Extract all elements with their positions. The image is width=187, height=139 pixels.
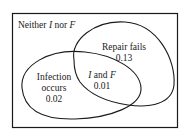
infection-occurs-label: Infection occurs 0.02 xyxy=(30,72,78,105)
repair-fails-text: Repair fails xyxy=(96,42,152,53)
infection-value: 0.02 xyxy=(30,94,78,105)
infection-text-line2: occurs xyxy=(30,83,78,94)
repair-fails-label: Repair fails 0.13 xyxy=(96,42,152,64)
infection-text-line1: Infection xyxy=(30,72,78,83)
set-f-symbol: F xyxy=(69,20,75,30)
intersection-label: I and F 0.01 xyxy=(84,70,120,92)
intersection-value: 0.01 xyxy=(84,81,120,92)
venn-diagram: Neither I nor F Repair fails 0.13 I and … xyxy=(0,0,187,139)
neither-prefix: Neither xyxy=(18,20,49,30)
intersection-mid: and xyxy=(91,70,109,80)
set-f-symbol: F xyxy=(110,70,116,80)
repair-fails-value: 0.13 xyxy=(96,53,152,64)
neither-label: Neither I nor F xyxy=(18,20,75,31)
neither-mid: nor xyxy=(52,20,69,30)
